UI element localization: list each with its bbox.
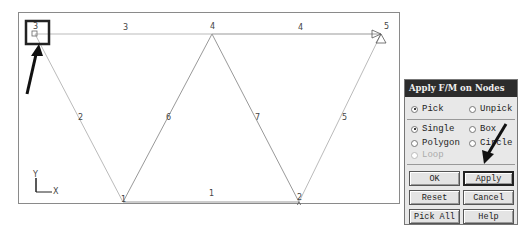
element-label-4: 4: [298, 23, 303, 32]
help-button[interactable]: Help: [463, 209, 514, 224]
axis-y-label: Y: [32, 170, 38, 179]
unpick-label: Unpick: [480, 104, 512, 114]
element-label-2: 2: [78, 113, 83, 122]
pick-mode-row: Pick Unpick: [405, 101, 517, 117]
single-radio[interactable]: Single: [411, 124, 454, 134]
apply-button[interactable]: Apply: [463, 171, 514, 186]
loop-radio: Loop: [411, 150, 444, 160]
single-label: Single: [422, 124, 454, 134]
truss-model: 3 4 5 1 2 3 4 2 6 7 5 1 Y X: [19, 13, 401, 205]
element-label-7: 7: [255, 113, 260, 122]
cancel-button[interactable]: Cancel: [463, 190, 514, 205]
pick-all-button[interactable]: Pick All: [409, 209, 460, 224]
annotation-arrow-icon: [15, 40, 75, 120]
element-label-3: 3: [123, 23, 128, 32]
unpick-radio[interactable]: Unpick: [469, 104, 512, 114]
radio-selected-icon: [411, 126, 418, 133]
polygon-label: Polygon: [422, 138, 460, 148]
axis-x-label: X: [53, 187, 59, 196]
polygon-radio[interactable]: Polygon: [411, 138, 460, 148]
radio-disabled-icon: [411, 152, 418, 159]
element-label-6: 6: [166, 113, 171, 122]
pick-radio[interactable]: Pick: [411, 104, 444, 114]
reset-button[interactable]: Reset: [409, 190, 460, 205]
button-grid: OK Apply Reset Cancel Pick All Help: [405, 167, 517, 227]
node-label-5: 5: [384, 22, 389, 31]
element-5: [299, 34, 381, 202]
radio-unselected-icon: [469, 106, 476, 113]
element-label-1: 1: [209, 189, 214, 198]
node-label-2: 2: [297, 193, 302, 202]
node-label-3: 3: [33, 22, 38, 31]
ok-button[interactable]: OK: [409, 171, 460, 186]
axis-triad: Y X: [32, 170, 59, 196]
radio-unselected-icon: [411, 140, 418, 147]
node-label-1: 1: [121, 195, 126, 204]
pick-label: Pick: [422, 104, 444, 114]
node-label-4: 4: [210, 22, 215, 31]
dialog-title: Apply F/M on Nodes: [405, 80, 517, 97]
support-icon-node-5: [372, 30, 386, 43]
radio-selected-icon: [411, 106, 418, 113]
graphics-viewport[interactable]: 3 4 5 1 2 3 4 2 6 7 5 1 Y X: [18, 12, 400, 204]
element-label-5: 5: [342, 113, 347, 122]
loop-label: Loop: [422, 150, 444, 160]
annotation-arrow-icon-apply: [474, 120, 514, 170]
